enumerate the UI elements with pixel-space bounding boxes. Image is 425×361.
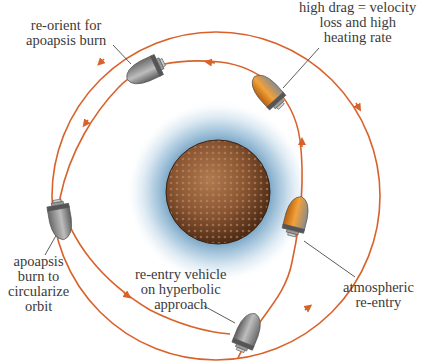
planet [166,140,270,244]
trajectory-arrow-icon [85,120,88,124]
label-hyperbolic-approach: re-entry vehicle on hyperbolic approach [135,267,226,312]
capsule-hyperbolic-approach [230,309,266,355]
capsule-reorient [122,52,168,89]
label-high-drag: high drag = velocity loss and high heati… [299,0,416,45]
aerocapture-diagram: re-orient for apoapsis burn high drag = … [0,0,425,361]
label-reorient: re-orient for apoapsis burn [26,18,106,48]
trajectory-arrow-icon [208,62,215,63]
orbit-arrow-icon [305,307,309,310]
capsule-apoapsis-burn [46,198,75,242]
orbit-arrow-icon [356,103,359,108]
label-apoapsis-burn: apoapsis burn to circularize orbit [8,254,69,314]
orbit-arrow-icon [100,59,104,63]
label-atmospheric-reentry: atmospheric re-entry [343,280,414,310]
